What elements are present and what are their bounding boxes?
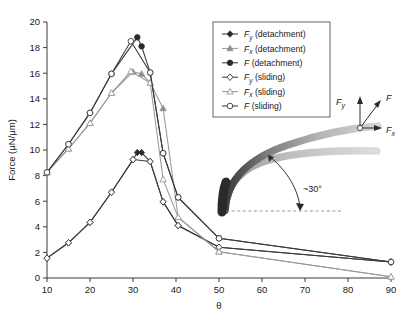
x-axis-title: θ bbox=[216, 300, 221, 311]
marker-shape bbox=[160, 150, 166, 156]
data-point-marker bbox=[160, 176, 166, 182]
seta-base bbox=[222, 182, 226, 212]
y-tick-label: 14 bbox=[29, 93, 40, 104]
data-point-marker bbox=[87, 110, 93, 116]
legend-label: F (sliding) bbox=[244, 101, 282, 111]
data-point-marker bbox=[139, 44, 145, 50]
x-axis-ticks: 102030405060708090 bbox=[42, 278, 397, 295]
marker-shape bbox=[227, 60, 233, 66]
f-vector-label: F bbox=[386, 93, 392, 103]
seta-shaft-upper bbox=[225, 126, 378, 210]
data-point-marker bbox=[227, 60, 233, 66]
y-tick-label: 0 bbox=[35, 272, 40, 283]
x-tick-label: 90 bbox=[386, 284, 397, 295]
marker-shape bbox=[109, 71, 115, 77]
data-point-marker bbox=[160, 199, 166, 206]
marker-shape bbox=[216, 236, 222, 242]
y-axis-title: Force (μN/μm) bbox=[6, 119, 17, 181]
y-tick-label: 18 bbox=[29, 42, 40, 53]
data-point-marker bbox=[44, 255, 50, 262]
data-point-marker bbox=[147, 70, 153, 76]
marker-shape bbox=[66, 141, 72, 147]
y-tick-label: 12 bbox=[29, 119, 40, 130]
marker-shape bbox=[160, 176, 166, 182]
fx-vector-label: Fx bbox=[386, 125, 396, 137]
marker-shape bbox=[135, 35, 141, 41]
data-point-marker bbox=[44, 170, 50, 176]
x-tick-label: 10 bbox=[42, 284, 53, 295]
marker-shape bbox=[160, 105, 166, 111]
data-point-marker bbox=[160, 105, 166, 111]
marker-shape bbox=[160, 199, 166, 206]
legend-label: F (detachment) bbox=[244, 58, 302, 68]
marker-shape bbox=[128, 38, 134, 44]
force-vs-angle-chart: 02468101214161820 102030405060708090 θ F… bbox=[0, 0, 399, 324]
data-point-marker bbox=[160, 150, 166, 156]
marker-shape bbox=[44, 170, 50, 176]
data-point-marker bbox=[175, 195, 181, 201]
x-tick-label: 50 bbox=[214, 284, 225, 295]
inset-angle-arc bbox=[268, 155, 300, 207]
data-point-marker bbox=[388, 259, 394, 265]
y-tick-label: 2 bbox=[35, 247, 40, 258]
y-tick-label: 20 bbox=[29, 16, 40, 27]
y-tick-label: 6 bbox=[35, 196, 40, 207]
x-tick-label: 60 bbox=[257, 284, 268, 295]
x-tick-label: 30 bbox=[128, 284, 139, 295]
legend-label: Fx (detachment) bbox=[244, 44, 306, 55]
data-point-marker bbox=[227, 103, 233, 109]
marker-shape bbox=[139, 44, 145, 50]
x-tick-label: 70 bbox=[300, 284, 311, 295]
marker-shape bbox=[227, 103, 233, 109]
y-axis-ticks: 02468101214161820 bbox=[29, 16, 47, 283]
marker-shape bbox=[147, 70, 153, 76]
data-point-marker bbox=[135, 35, 141, 41]
vector-origin-marker bbox=[357, 125, 362, 130]
marker-shape bbox=[44, 255, 50, 262]
fy-arrowhead bbox=[357, 96, 363, 104]
fy-vector-label: Fy bbox=[336, 97, 346, 110]
marker-shape bbox=[388, 259, 394, 265]
data-point-marker bbox=[66, 141, 72, 147]
x-tick-label: 40 bbox=[171, 284, 182, 295]
y-tick-label: 16 bbox=[29, 68, 40, 79]
marker-shape bbox=[87, 110, 93, 116]
seta-shaft-lower bbox=[225, 151, 377, 210]
marker-shape bbox=[175, 214, 181, 220]
data-point-marker bbox=[216, 236, 222, 242]
marker-shape bbox=[175, 195, 181, 201]
data-point-marker bbox=[128, 38, 134, 44]
marker-shape bbox=[175, 222, 181, 229]
inset-seta-diagram: ~30° bbox=[222, 126, 378, 212]
data-point-marker bbox=[109, 71, 115, 77]
x-tick-label: 80 bbox=[343, 284, 354, 295]
y-tick-label: 10 bbox=[29, 144, 40, 155]
f-arrowhead bbox=[374, 100, 381, 108]
figure-root: 02468101214161820 102030405060708090 θ F… bbox=[0, 0, 399, 324]
inset-angle-arrow-bottom bbox=[296, 203, 304, 211]
x-tick-label: 20 bbox=[85, 284, 96, 295]
data-point-marker bbox=[175, 222, 181, 229]
data-point-marker bbox=[175, 214, 181, 220]
y-tick-label: 8 bbox=[35, 170, 40, 181]
y-tick-label: 4 bbox=[35, 221, 40, 232]
chart-legend: Fy (detachment)Fx (detachment)F (detachm… bbox=[213, 22, 330, 117]
inset-angle-label: ~30° bbox=[303, 184, 322, 194]
